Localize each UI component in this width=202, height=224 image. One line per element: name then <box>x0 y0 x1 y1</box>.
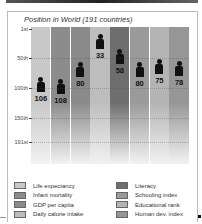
legend-swatch <box>116 182 128 189</box>
column-schooling-index <box>130 27 149 164</box>
person-icon: 80 <box>74 62 86 77</box>
column-gdp-per-capita <box>71 27 90 164</box>
legend-label: Schooling index <box>135 192 177 198</box>
y-tick-label: 191st <box>0 139 28 145</box>
gridline <box>31 58 189 59</box>
person-icon: 78 <box>173 61 185 76</box>
y-tick-label: 50th <box>0 55 28 61</box>
plot-area: 106108803358807578 <box>31 27 189 164</box>
top-rule <box>6 0 198 3</box>
legend-label: Human dev. index <box>135 211 183 217</box>
rank-value: 58 <box>108 66 132 75</box>
corner-mark <box>198 215 201 218</box>
legend-swatch <box>14 211 26 218</box>
legend-swatch <box>116 201 128 208</box>
rank-value: 80 <box>68 79 92 88</box>
legend-item: Literacy <box>116 181 156 190</box>
legend-item: Educational rank <box>116 200 180 209</box>
rank-value: 78 <box>167 78 191 87</box>
person-icon: 106 <box>35 77 47 92</box>
y-tick-label: 1st <box>0 26 28 32</box>
legend-label: Educational rank <box>135 202 180 208</box>
person-icon: 108 <box>55 79 67 94</box>
person-icon: 33 <box>94 34 106 49</box>
legend-swatch <box>14 182 26 189</box>
gridline <box>31 142 189 143</box>
legend-label: Literacy <box>135 183 156 189</box>
person-icon: 58 <box>114 49 126 64</box>
chart-title: Position in World (191 countries) <box>24 15 132 24</box>
legend-swatch <box>14 192 26 199</box>
gridline <box>31 118 189 119</box>
column-literacy <box>110 27 129 164</box>
legend-item: Life expectancy <box>14 181 75 190</box>
divider <box>0 217 6 218</box>
legend-item: Schooling index <box>116 191 177 200</box>
legend-label: Daily calorie intake <box>33 211 83 217</box>
legend-label: GDP per capita <box>33 202 74 208</box>
legend-item: Daily calorie intake <box>14 210 83 219</box>
person-icon: 80 <box>134 62 146 77</box>
rank-value: 108 <box>49 96 73 105</box>
legend-item: GDP per capita <box>14 200 74 209</box>
legend-label: Infant mortality <box>33 192 72 198</box>
person-icon: 75 <box>153 59 165 74</box>
column-human-dev-index <box>169 27 188 164</box>
column-educational-rank <box>150 27 169 164</box>
legend-label: Life expectancy <box>33 183 75 189</box>
legend-swatch <box>116 211 128 218</box>
legend-item: Infant mortality <box>14 191 72 200</box>
y-tick-label: 150th <box>0 115 28 121</box>
legend-swatch <box>116 192 128 199</box>
legend-swatch <box>14 201 26 208</box>
gridline <box>31 88 189 89</box>
y-tick-label: 100th <box>0 85 28 91</box>
legend-item: Human dev. index <box>116 210 183 219</box>
